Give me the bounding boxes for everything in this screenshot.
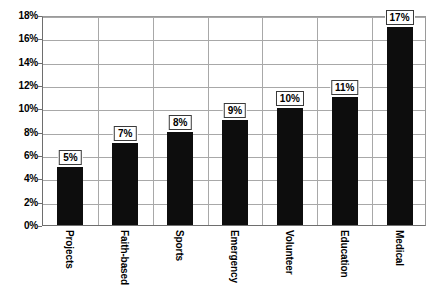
x-axis-category: Faith-based [97, 228, 152, 294]
x-axis-category: Medical [371, 228, 426, 294]
x-axis-category: Volunteer [261, 228, 316, 294]
y-axis-tick-label: 0% [0, 221, 38, 231]
bar-value-label: 17% [386, 10, 414, 25]
x-axis-category-label: Faith-based [119, 230, 130, 285]
x-axis-category-label: Sports [174, 230, 185, 261]
x-axis: ProjectsFaith-basedSportsEmergencyVolunt… [42, 228, 426, 294]
y-axis-tick-label: 18% [0, 11, 38, 21]
x-axis-category: Emergency [207, 228, 262, 294]
y-axis-tick-mark [38, 226, 42, 227]
bar-group: 17% [372, 17, 427, 225]
x-axis-category-label: Emergency [228, 230, 239, 283]
x-axis-category-label: Education [338, 230, 349, 277]
bar-value-label: 11% [331, 80, 358, 95]
y-axis-tick-label: 16% [0, 34, 38, 44]
plot-area: 5%7%8%9%10%11%17% [42, 16, 426, 226]
bar-value-label: 5% [59, 150, 81, 165]
bar-chart: 0%2%4%6%8%10%12%14%16%18% 5%7%8%9%10%11%… [0, 0, 440, 294]
bar-group: 10% [262, 17, 317, 225]
x-axis-category-label: Volunteer [283, 230, 294, 274]
y-axis-tick-label: 8% [0, 128, 38, 138]
bar[interactable] [57, 167, 83, 225]
x-axis-category: Education [316, 228, 371, 294]
y-axis: 0%2%4%6%8%10%12%14%16%18% [0, 0, 38, 294]
y-axis-tick-label: 2% [0, 198, 38, 208]
bar-group: 7% [98, 17, 153, 225]
bar-value-label: 9% [224, 103, 246, 118]
bar[interactable] [167, 132, 193, 225]
bar[interactable] [222, 120, 248, 225]
x-axis-category: Projects [42, 228, 97, 294]
x-axis-category-label: Projects [64, 230, 75, 269]
y-axis-tick-label: 14% [0, 58, 38, 68]
bar[interactable] [387, 27, 413, 225]
y-axis-tick-label: 12% [0, 81, 38, 91]
bar-group: 8% [153, 17, 208, 225]
y-axis-tick-label: 10% [0, 104, 38, 114]
bar[interactable] [112, 143, 138, 225]
x-axis-category: Sports [152, 228, 207, 294]
bar-group: 9% [208, 17, 263, 225]
bar-value-label: 10% [276, 91, 304, 106]
y-axis-tick-label: 6% [0, 151, 38, 161]
bar[interactable] [332, 97, 358, 225]
bar-value-label: 8% [169, 115, 191, 130]
bar-group: 11% [317, 17, 372, 225]
bar-value-label: 7% [114, 126, 136, 141]
bar[interactable] [277, 108, 303, 225]
x-axis-category-label: Medical [393, 230, 404, 266]
bar-group: 5% [43, 17, 98, 225]
y-axis-tick-label: 4% [0, 174, 38, 184]
